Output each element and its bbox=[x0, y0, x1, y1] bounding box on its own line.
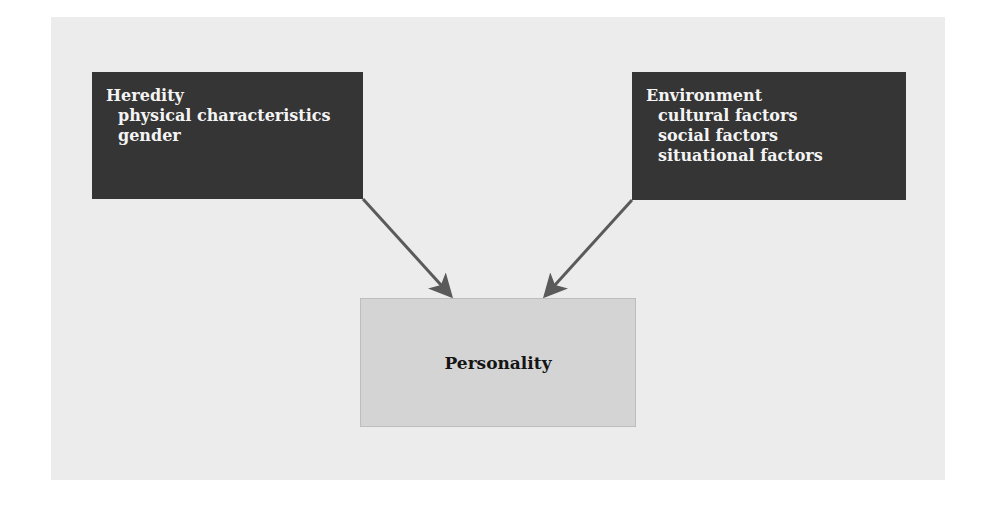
diagram-canvas: Heredity physical characteristics gender… bbox=[0, 0, 991, 505]
personality-title: Personality bbox=[444, 353, 551, 373]
heredity-title: Heredity bbox=[106, 86, 363, 106]
environment-item-social-factors: social factors bbox=[646, 126, 906, 146]
heredity-item-gender: gender bbox=[106, 126, 363, 146]
environment-item-situational-factors: situational factors bbox=[646, 146, 906, 166]
environment-box: Environment cultural factors social fact… bbox=[632, 72, 906, 200]
heredity-item-physical-characteristics: physical characteristics bbox=[106, 106, 363, 126]
environment-title: Environment bbox=[646, 86, 906, 106]
environment-item-cultural-factors: cultural factors bbox=[646, 106, 906, 126]
personality-box: Personality bbox=[360, 298, 636, 427]
heredity-box: Heredity physical characteristics gender bbox=[92, 72, 363, 199]
